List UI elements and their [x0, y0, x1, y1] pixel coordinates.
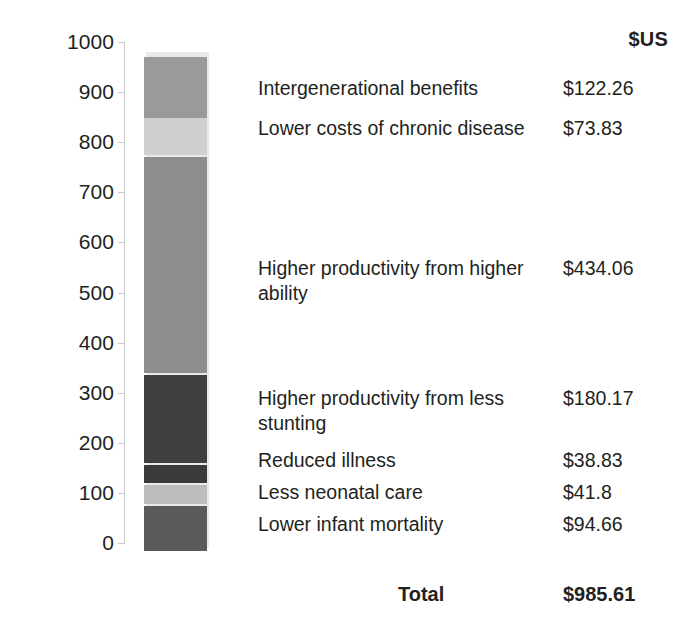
row-amount: $41.8 [563, 480, 668, 505]
row-amount: $94.66 [563, 512, 668, 537]
row-label: Reduced illness [258, 448, 543, 473]
stacked-bar-chart: 10009008007006005004003002001000 $US Int… [0, 0, 683, 632]
unit-header: $US [628, 28, 668, 51]
row-amount: $73.83 [563, 116, 668, 141]
y-tick-label: 300 [14, 382, 114, 403]
y-tick-mark [118, 42, 125, 43]
y-tick-label: 400 [14, 332, 114, 353]
y-tick-mark [118, 293, 125, 294]
bar-segment [144, 375, 207, 463]
y-tick-label: 600 [14, 231, 114, 252]
row-label: Less neonatal care [258, 480, 543, 505]
total-label: Total [398, 583, 444, 606]
y-tick-label: 800 [14, 131, 114, 152]
row-amount: $122.26 [563, 76, 668, 101]
row-label: Higher productivity from higher ability [258, 256, 543, 306]
bar-segment [144, 157, 207, 372]
bar-segment [144, 485, 207, 504]
row-label: Lower costs of chronic disease [258, 116, 543, 141]
y-tick-mark [118, 443, 125, 444]
row-amount: $180.17 [563, 386, 668, 411]
y-tick-label: 100 [14, 482, 114, 503]
bar-segment [144, 118, 207, 155]
row-amount: $434.06 [563, 256, 668, 281]
y-tick-mark [118, 92, 125, 93]
row-amount: $38.83 [563, 448, 668, 473]
y-tick-label: 500 [14, 282, 114, 303]
y-tick-label: 200 [14, 432, 114, 453]
y-tick-mark [118, 543, 125, 544]
row-label: Higher productivity from less stunting [258, 386, 543, 436]
row-label: Intergenerational benefits [258, 76, 543, 101]
y-tick-mark [118, 242, 125, 243]
y-tick-mark [118, 142, 125, 143]
row-label: Lower infant mortality [258, 512, 543, 537]
table-header: $US [258, 28, 668, 58]
bar-segment [144, 465, 207, 482]
y-tick-mark [118, 192, 125, 193]
y-tick-label: 900 [14, 81, 114, 102]
y-tick-mark [118, 493, 125, 494]
stacked-bar-column [144, 42, 207, 545]
y-tick-mark [118, 393, 125, 394]
bar-segment [144, 506, 207, 551]
y-tick-label: 1000 [14, 31, 114, 52]
y-tick-label: 0 [14, 532, 114, 553]
bar-segment [144, 57, 207, 118]
y-tick-label: 700 [14, 181, 114, 202]
total-amount: $985.61 [563, 583, 668, 606]
y-tick-mark [118, 343, 125, 344]
